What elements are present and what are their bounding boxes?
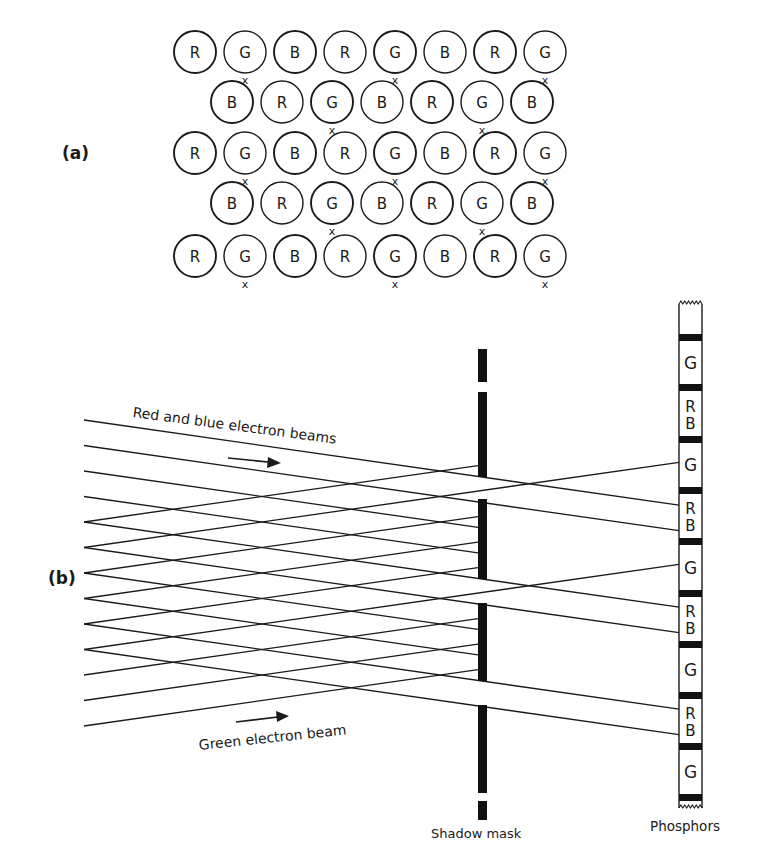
phosphor-dot-B: B — [274, 132, 316, 174]
dot-letter: G — [389, 145, 401, 163]
shadow-mask-segment — [478, 349, 487, 382]
phosphor-dot-B: B — [211, 81, 253, 123]
phosphor-dot-R: R — [261, 81, 303, 123]
dot-letter: R — [190, 44, 200, 62]
dot-letter: G — [476, 94, 488, 112]
phosphor-dot-R: R — [174, 31, 216, 73]
phosphor-dot-B: B — [361, 182, 403, 224]
phosphor-separator — [679, 538, 702, 545]
phosphor-dot-R: R — [474, 31, 516, 73]
dot-letter: B — [290, 248, 300, 266]
phosphor-dot-B: B — [424, 235, 466, 277]
phosphor-dot-R: R — [324, 132, 366, 174]
cross-mark-icon: x — [392, 278, 399, 291]
phosphor-dot-G: G — [374, 235, 416, 277]
shadow-mask-segment — [478, 392, 487, 477]
dot-letter: G — [539, 145, 551, 163]
green-beam — [84, 564, 679, 649]
shadow-mask-segment — [478, 705, 487, 793]
svg-text:B: B — [685, 415, 695, 433]
dot-letter: R — [340, 145, 350, 163]
dot-letter: R — [427, 94, 437, 112]
torn-edge-icon — [679, 301, 702, 304]
phosphor-separator — [679, 641, 702, 648]
phosphor-stripe-RB: RB — [685, 500, 695, 535]
phosphor-dot-B: B — [511, 81, 553, 123]
shadow-mask-diagram: RGBRGBRGxxxBRGBRGBxxRGBRGBRGxxxBRGBRGBxx… — [0, 0, 761, 868]
phosphor-dot-G: G — [524, 31, 566, 73]
phosphor-dot-R: R — [474, 235, 516, 277]
phosphor-separator — [679, 794, 702, 801]
dot-letter: B — [377, 195, 387, 213]
dot-letter: B — [290, 44, 300, 62]
red-blue-beam — [84, 446, 679, 531]
phosphor-stripe-G: G — [684, 455, 697, 475]
phosphor-dot-R: R — [474, 132, 516, 174]
shadow-mask-segment — [478, 499, 487, 579]
phosphor-stripe-RB: RB — [685, 705, 695, 740]
shadow-mask — [478, 349, 487, 820]
dot-letter: B — [440, 44, 450, 62]
dot-letter: R — [340, 248, 350, 266]
cross-mark-icon: x — [329, 225, 336, 238]
svg-text:R: R — [685, 500, 695, 518]
dot-letter: R — [490, 44, 500, 62]
phosphor-dot-G: G — [524, 235, 566, 277]
svg-text:G: G — [684, 660, 697, 680]
dot-letter: R — [277, 94, 287, 112]
shadow-mask-segment — [478, 603, 487, 681]
dot-letter: R — [190, 248, 200, 266]
phosphor-dot-B: B — [274, 31, 316, 73]
phosphor-dot-G: G — [374, 132, 416, 174]
phosphor-stripe-G: G — [684, 762, 697, 782]
cross-mark-icon: x — [542, 278, 549, 291]
phosphor-dot-B: B — [361, 81, 403, 123]
phosphor-stripe-G: G — [684, 353, 697, 373]
phosphor-separator — [679, 487, 702, 494]
svg-text:B: B — [685, 722, 695, 740]
shadow-mask-label: Shadow mask — [431, 826, 521, 841]
phosphors-label: Phosphors — [650, 818, 720, 834]
dot-letter: R — [340, 44, 350, 62]
torn-edge-icon — [679, 805, 702, 808]
dot-letter: R — [490, 145, 500, 163]
cross-mark-icon: x — [479, 225, 486, 238]
phosphor-dot-R: R — [324, 235, 366, 277]
phosphor-dot-B: B — [211, 182, 253, 224]
cross-mark-icon: x — [242, 278, 249, 291]
green-beam — [84, 462, 679, 547]
phosphor-stripe-RB: RB — [685, 603, 695, 638]
dot-letter: B — [377, 94, 387, 112]
dot-letter: G — [326, 195, 338, 213]
dot-letter: B — [527, 195, 537, 213]
svg-text:B: B — [685, 620, 695, 638]
phosphor-dot-B: B — [424, 31, 466, 73]
phosphor-dot-B: B — [274, 235, 316, 277]
phosphor-separator — [679, 384, 702, 391]
dot-letter: B — [527, 94, 537, 112]
phosphor-dot-R: R — [261, 182, 303, 224]
dot-letter: B — [440, 145, 450, 163]
phosphor-dot-G: G — [311, 81, 353, 123]
phosphor-dot-G: G — [224, 31, 266, 73]
green-arrowhead-icon — [276, 711, 289, 722]
phosphor-dot-G: G — [524, 132, 566, 174]
phosphor-separator — [679, 590, 702, 597]
phosphor-dot-R: R — [411, 182, 453, 224]
dot-letter: G — [539, 44, 551, 62]
dot-letter: R — [427, 195, 437, 213]
phosphor-stripe-G: G — [684, 660, 697, 680]
dot-letter: G — [476, 195, 488, 213]
dot-letter: G — [239, 248, 251, 266]
dot-letter: G — [389, 248, 401, 266]
phosphor-strip: GRBGRBGRBGRBG — [679, 301, 702, 808]
phosphor-dot-G: G — [224, 132, 266, 174]
svg-text:R: R — [685, 705, 695, 723]
phosphor-stripe-RB: RB — [685, 398, 695, 433]
svg-text:G: G — [684, 558, 697, 578]
svg-text:G: G — [684, 762, 697, 782]
phosphor-dot-B: B — [511, 182, 553, 224]
svg-text:R: R — [685, 398, 695, 416]
dot-letter: B — [227, 195, 237, 213]
red-blue-arrowhead-icon — [267, 457, 281, 468]
